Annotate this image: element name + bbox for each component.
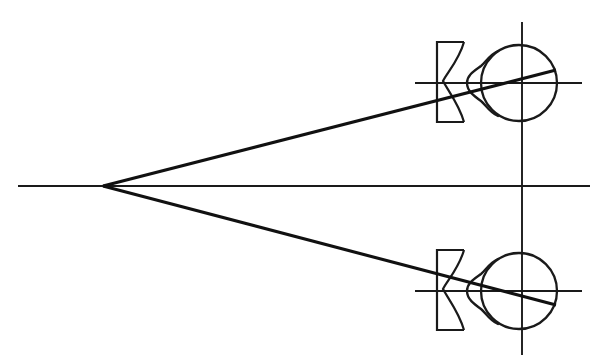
lens-upper-concave-face-icon: [443, 42, 464, 122]
ray-lower-line: [103, 186, 556, 305]
lens-lower-group: [437, 250, 464, 330]
diagram-canvas: [0, 0, 608, 361]
lens-lower-concave-face-icon: [443, 250, 464, 330]
lens-upper-group: [437, 42, 464, 122]
ray-upper-line: [103, 70, 556, 186]
optical-ray-diagram-figure: Optical ray diagram: point source imaged…: [0, 0, 608, 361]
